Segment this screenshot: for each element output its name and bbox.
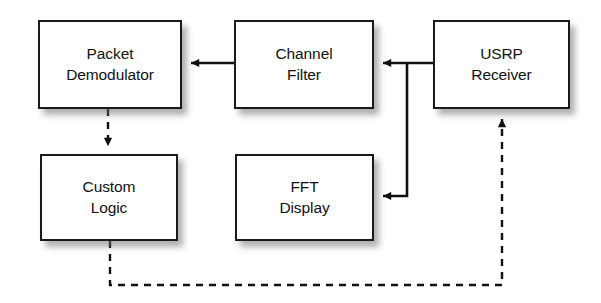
- block-custom-logic[interactable]: Custom Logic: [40, 154, 178, 241]
- connector-usrp-to-fft-display: [383, 63, 407, 196]
- block-diagram-canvas: Packet Demodulator Channel Filter USRP R…: [0, 0, 601, 303]
- block-channel-filter[interactable]: Channel Filter: [234, 20, 374, 109]
- block-label-line2: Demodulator: [66, 65, 154, 85]
- block-label-line1: Channel: [275, 44, 332, 64]
- block-label-line1: Custom: [83, 177, 136, 197]
- block-label-line2: Display: [279, 198, 329, 218]
- block-label-line1: Packet: [87, 44, 134, 64]
- block-usrp-receiver[interactable]: USRP Receiver: [433, 20, 570, 109]
- block-packet-demodulator[interactable]: Packet Demodulator: [38, 20, 182, 109]
- block-label-line1: FFT: [290, 177, 318, 197]
- block-label-line2: Logic: [91, 198, 128, 218]
- block-label-line1: USRP: [480, 44, 523, 64]
- block-fft-display[interactable]: FFT Display: [235, 154, 374, 241]
- block-label-line2: Filter: [287, 65, 321, 85]
- block-label-line2: Receiver: [471, 65, 531, 85]
